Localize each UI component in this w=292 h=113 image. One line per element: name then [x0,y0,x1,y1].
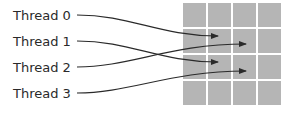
arrow-thread-0 [77,15,218,36]
thread-arrows [0,0,292,113]
arrow-thread-1 [77,41,218,62]
arrow-thread-3 [77,71,246,93]
